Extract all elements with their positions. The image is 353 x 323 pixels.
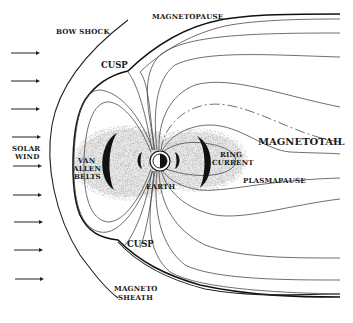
label-cusp-north: CUSP	[101, 60, 128, 70]
arrow-icon	[11, 107, 40, 111]
arrow-icon	[12, 135, 41, 139]
label-solar-wind-2: WIND	[14, 152, 39, 161]
arrow-icon	[11, 79, 40, 83]
label-earth: EARTH	[146, 182, 175, 191]
label-magnetopause: MAGNETOPAUSE	[152, 12, 223, 21]
arrow-icon	[14, 248, 43, 252]
label-magnetosheath-1: MAGNETO	[114, 284, 158, 293]
label-ring-current-2: CURRENT	[212, 158, 254, 167]
arrow-icon	[11, 51, 40, 55]
solar-wind-arrows	[11, 51, 44, 281]
arrow-icon	[14, 220, 43, 224]
label-magnetosheath-2: SHEATH	[118, 293, 153, 302]
label-magnetotail: MAGNETOTAIL	[258, 136, 345, 147]
label-bow-shock: BOW SHOCK	[56, 27, 110, 36]
arrow-icon	[13, 193, 42, 197]
label-van-allen-3: BELTS	[74, 172, 101, 181]
arrow-icon	[13, 164, 42, 168]
earth-icon	[150, 151, 170, 171]
label-cusp-south: CUSP	[127, 239, 154, 249]
magnetosphere-diagram: BOW SHOCK MAGNETOPAUSE CUSP SOLAR WIND V…	[0, 0, 353, 323]
arrow-icon	[15, 277, 44, 281]
label-plasmapause: PLASMAPAUSE	[243, 176, 306, 185]
